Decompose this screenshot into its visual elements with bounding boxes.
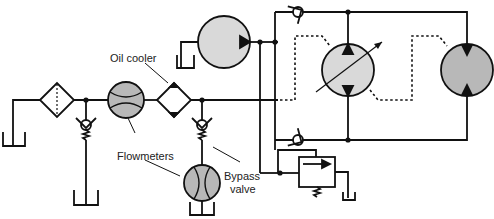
oil-cooler-label: Oil cooler (110, 52, 156, 64)
flowmeter-1-icon (108, 82, 144, 118)
charge-pump-icon (198, 16, 250, 68)
bypass-valve-label-line1: Bypass (224, 170, 260, 182)
relief-valve-icon (278, 150, 355, 200)
oil-cooler-icon (157, 83, 191, 117)
hydraulic-motor-icon (441, 44, 493, 96)
reservoir-5-icon (343, 192, 355, 200)
reservoir-left-icon (3, 100, 40, 146)
bypass-valve-label-line2: valve (230, 183, 256, 195)
filter-icon (40, 83, 74, 117)
check-valve-2-icon (192, 118, 212, 140)
flowmeters-label: Flowmeters (117, 150, 174, 162)
flowmeter-2-icon (184, 165, 220, 201)
reservoir-4-icon (177, 42, 198, 68)
variable-displacement-pump-icon (316, 42, 382, 96)
check-valve-1-icon (76, 118, 96, 140)
